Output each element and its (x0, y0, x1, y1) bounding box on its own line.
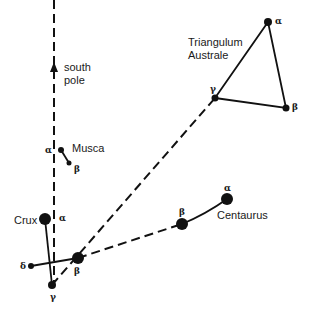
crux-to-centaurus-dashed-line (78, 224, 182, 258)
triangulum-australe-lines (215, 22, 286, 108)
centaurus-beta-label: β (179, 208, 185, 217)
crux-gamma-label: γ (50, 293, 56, 302)
south-pole-arrow-icon (50, 62, 58, 72)
star-triangulum-beta (283, 105, 290, 112)
star-crux-beta (72, 252, 84, 264)
centaurus-label: Centaurus (217, 210, 268, 221)
crux-alpha-label: α (59, 214, 66, 223)
musca-label: Musca (72, 143, 104, 154)
star-centaurus-beta (176, 218, 188, 230)
star-triangulum-alpha (264, 18, 272, 26)
triangulum-australe-label-line1: Triangulum (188, 37, 243, 48)
triangulum-alpha-label: α (275, 17, 282, 26)
triangulum-beta-label: β (292, 103, 298, 112)
triangulum-gamma-label: γ (210, 85, 216, 94)
musca-beta-label: β (74, 165, 80, 174)
crux-delta-label: δ (20, 262, 26, 271)
crux-beta-label: β (74, 267, 80, 276)
star-triangulum-gamma (212, 95, 219, 102)
centaurus-alpha-label: α (224, 184, 231, 193)
crux-alpha-gamma-line (45, 219, 52, 285)
star-crux-delta (28, 263, 34, 269)
star-chart (0, 0, 309, 313)
south-pole-label-line2: pole (64, 75, 85, 86)
musca-alpha-label: α (45, 146, 52, 155)
crux-label: Crux (14, 215, 37, 226)
triangulum-australe-label-line2: Australe (188, 50, 228, 61)
star-musca-beta (67, 161, 72, 166)
star-crux-gamma (48, 281, 56, 289)
star-centaurus-alpha (221, 193, 233, 205)
star-crux-alpha (39, 213, 51, 225)
star-musca-alpha (58, 147, 64, 153)
south-pole-label-line1: south (64, 62, 91, 73)
